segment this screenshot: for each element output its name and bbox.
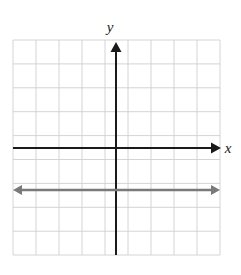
graph-figure: y x	[0, 0, 241, 275]
coordinate-plane-svg: y x	[0, 0, 241, 275]
x-axis-label: x	[224, 140, 232, 156]
y-axis-label: y	[105, 19, 114, 35]
